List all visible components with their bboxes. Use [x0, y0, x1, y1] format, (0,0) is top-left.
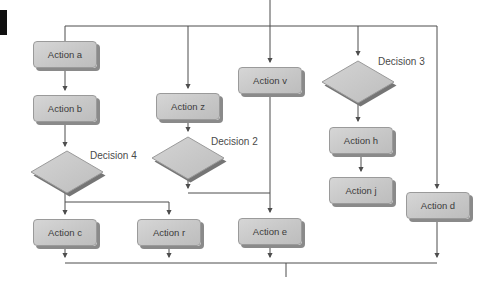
node-action-d: Action d: [406, 192, 470, 219]
flowchart-figure: Action a Action b Action c Action z Acti…: [0, 0, 491, 285]
node-action-c: Action c: [33, 219, 97, 246]
node-action-z: Action z: [156, 93, 220, 120]
edge-rail-top: [65, 26, 437, 188]
label-decision-2: Decision 2: [211, 136, 258, 147]
label-decision-4: Decision 4: [90, 150, 137, 161]
node-action-r: Action r: [137, 219, 201, 246]
node-action-v: Action v: [238, 67, 302, 94]
label-decision-3: Decision 3: [378, 56, 425, 67]
node-action-a: Action a: [33, 41, 97, 68]
node-action-j: Action j: [329, 177, 393, 204]
decision-3-shape: [322, 61, 394, 103]
node-action-e: Action e: [238, 218, 302, 245]
node-action-h: Action h: [329, 127, 393, 154]
node-action-b: Action b: [33, 95, 97, 122]
